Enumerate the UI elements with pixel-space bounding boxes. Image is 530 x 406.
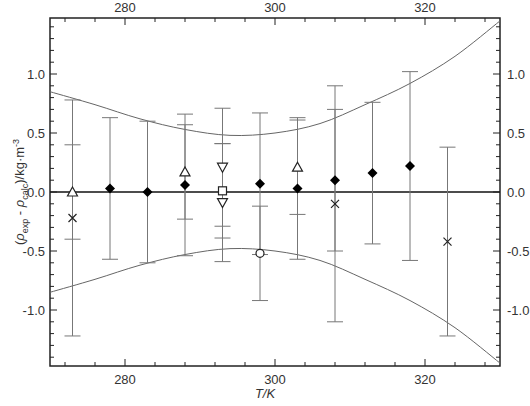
diamond-marker [255, 179, 265, 189]
y-tick-label-right: -0.5 [507, 244, 529, 259]
y-tick-label-right: -1.0 [507, 303, 529, 318]
diamond-marker [368, 168, 378, 178]
x-axis-label: T/K [255, 386, 277, 401]
y-tick-label-left: 1.0 [27, 67, 45, 82]
diamond-marker [330, 175, 340, 185]
x-tick-label-top: 300 [264, 0, 286, 15]
chart-plot: 280280300300320320-1.0-1.0-0.5-0.50.00.0… [0, 0, 530, 406]
y-tick-label-right: 1.0 [507, 67, 525, 82]
diamond-marker [180, 180, 190, 190]
square-marker [219, 187, 227, 195]
x-tick-label-bottom: 280 [114, 372, 136, 387]
y-tick-label-left: -0.5 [23, 244, 45, 259]
upper-envelope-curve [50, 21, 500, 136]
circle-marker [256, 249, 264, 257]
y-tick-label-right: 0.0 [507, 185, 525, 200]
y-tick-label-left: 0.5 [27, 126, 45, 141]
x-tick-label-top: 280 [114, 0, 136, 15]
diamond-marker [405, 161, 415, 171]
x-tick-label-bottom: 320 [414, 372, 436, 387]
y-tick-label-right: 0.5 [507, 126, 525, 141]
y-axis-label: (ρexp - ρcalc)/kg·m-3 [11, 139, 30, 245]
tick-labels: 280280300300320320-1.0-1.0-0.5-0.50.00.0… [23, 0, 530, 387]
triangle-up-marker [293, 162, 303, 171]
triangle-down-marker [218, 199, 228, 208]
y-tick-label-left: -1.0 [23, 303, 45, 318]
diamond-marker [143, 187, 153, 197]
error-bars [65, 72, 456, 336]
triangle-up-marker [180, 167, 190, 176]
lower-envelope-curve [50, 248, 500, 363]
x-tick-label-top: 320 [414, 0, 436, 15]
x-tick-label-bottom: 300 [264, 372, 286, 387]
triangle-down-marker [218, 163, 228, 172]
